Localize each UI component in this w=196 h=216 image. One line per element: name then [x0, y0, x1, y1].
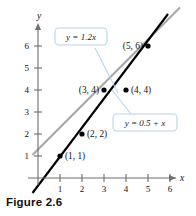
data-point-label: (4, 4) — [131, 85, 151, 96]
y-tick-label-2: 2 — [25, 129, 30, 139]
y-tick-label-5: 5 — [25, 63, 30, 73]
x-tick-label-5: 5 — [146, 184, 151, 194]
y-tick-label-1: 1 — [25, 151, 30, 161]
x-tick-label-4: 4 — [124, 184, 129, 194]
figure-container: 1 2 3 4 5 6 1 2 3 4 5 6 x y y = 1.2x y =… — [0, 0, 196, 216]
x-tick-label-6: 6 — [168, 184, 173, 194]
data-point — [57, 153, 62, 158]
x-tick-label-2: 2 — [80, 184, 85, 194]
data-point — [101, 87, 106, 92]
x-tick-label-3: 3 — [102, 184, 107, 194]
y-tick-label-4: 4 — [25, 85, 30, 95]
callout-leader-2 — [112, 90, 131, 114]
figure-caption: Figure 2.6 — [6, 196, 62, 208]
x-tick-label-1: 1 — [58, 184, 63, 194]
callout-label-1: y = 1.2x — [65, 32, 96, 42]
y-tick-label-3: 3 — [25, 107, 30, 117]
data-point-label: (1, 1) — [65, 151, 85, 162]
x-axis-label: x — [179, 173, 185, 183]
callout-y-equals-0point5-plus-x: y = 0.5 + x — [113, 114, 177, 131]
callout-y-equals-1point2x: y = 1.2x — [55, 28, 107, 45]
callout-label-2: y = 0.5 + x — [124, 118, 165, 128]
data-point — [123, 87, 128, 92]
data-point-label: (2, 2) — [87, 129, 107, 140]
data-point-label: (5, 6) — [123, 41, 143, 52]
data-point — [145, 43, 150, 48]
y-axis-arrowhead — [35, 23, 41, 30]
y-tick-label-6: 6 — [25, 41, 30, 51]
data-point — [79, 131, 84, 136]
data-point-label: (3, 4) — [79, 85, 99, 96]
scatter-plot: 1 2 3 4 5 6 1 2 3 4 5 6 x y y = 1.2x y =… — [0, 0, 196, 216]
y-axis-label: y — [36, 11, 42, 21]
